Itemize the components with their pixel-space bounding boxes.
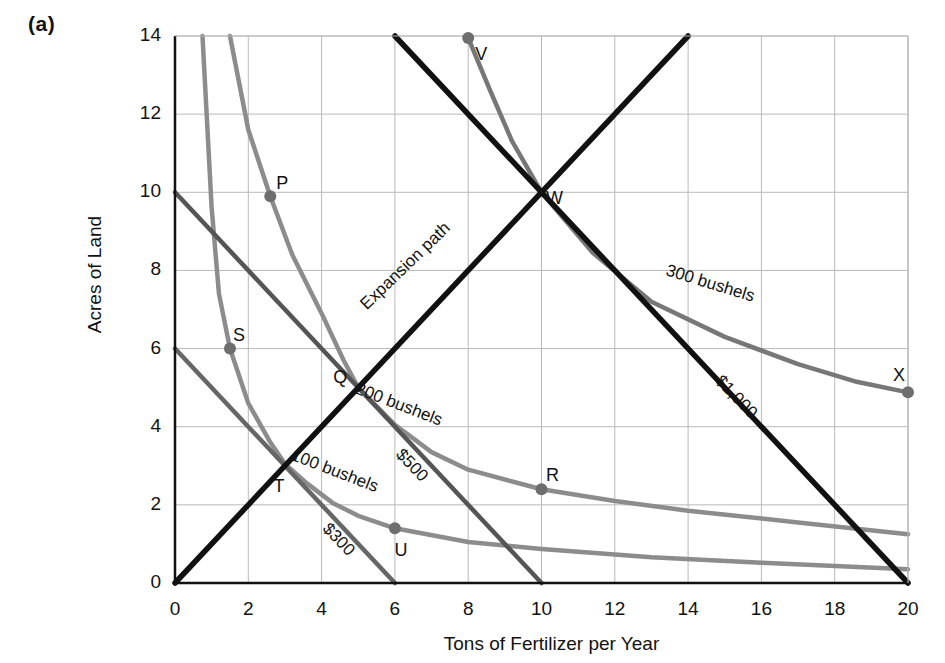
isoquant-isocost-chart: PQRSTUVWX 100 bushels200 bushels300 bush… bbox=[0, 0, 945, 663]
y-tick-label: 6 bbox=[150, 337, 161, 358]
series-line-1-000 bbox=[395, 36, 908, 583]
x-tick-label: 0 bbox=[170, 598, 181, 619]
x-tick-label: 18 bbox=[824, 598, 845, 619]
data-point-dot-p bbox=[264, 190, 276, 202]
data-point-label-p: P bbox=[276, 173, 288, 193]
curve-label-1-000: $1,000 bbox=[712, 371, 762, 422]
chart-canvas: PQRSTUVWX 100 bushels200 bushels300 bush… bbox=[0, 0, 945, 663]
x-tick-label: 6 bbox=[390, 598, 401, 619]
x-tick-label: 20 bbox=[897, 598, 918, 619]
y-tick-label: 12 bbox=[140, 102, 161, 123]
x-tick-label: 14 bbox=[678, 598, 700, 619]
y-tick-label: 10 bbox=[140, 180, 161, 201]
data-point-dot-u bbox=[389, 522, 401, 534]
data-point-label-r: R bbox=[546, 465, 559, 485]
curve-label-500: $500 bbox=[392, 445, 432, 485]
data-point-dot-r bbox=[536, 483, 548, 495]
y-tick-label: 2 bbox=[150, 493, 161, 514]
y-tick-label: 4 bbox=[150, 415, 161, 436]
data-point-label-s: S bbox=[233, 325, 245, 345]
curve-labels: 100 bushels200 bushels300 bushels$300$50… bbox=[289, 218, 762, 559]
x-tick-label: 4 bbox=[316, 598, 327, 619]
data-point-label-x: X bbox=[893, 365, 905, 385]
curve-label-200-bushels: 200 bushels bbox=[353, 379, 445, 430]
x-tick-label: 12 bbox=[604, 598, 625, 619]
axis-titles: Tons of Fertilizer per YearAcres of Land bbox=[84, 216, 660, 654]
x-tick-label: 10 bbox=[531, 598, 552, 619]
curve-label-300-bushels: 300 bushels bbox=[664, 261, 757, 306]
y-tick-label: 14 bbox=[140, 24, 162, 45]
y-axis-title: Acres of Land bbox=[84, 216, 105, 333]
curve-label-300: $300 bbox=[319, 519, 359, 559]
curve-label-100-bushels: 100 bushels bbox=[289, 445, 381, 496]
tick-labels: 0246810121416182002468101214 bbox=[140, 24, 919, 619]
x-tick-label: 8 bbox=[463, 598, 474, 619]
y-tick-label: 0 bbox=[150, 571, 161, 592]
data-point-dot-x bbox=[902, 386, 914, 398]
data-point-label-w: W bbox=[546, 188, 563, 208]
x-axis-title: Tons of Fertilizer per Year bbox=[444, 633, 660, 654]
data-point-label-u: U bbox=[394, 540, 407, 560]
data-point-label-q: Q bbox=[333, 367, 347, 387]
x-tick-label: 2 bbox=[243, 598, 254, 619]
data-point-dot-v bbox=[462, 32, 474, 44]
x-tick-label: 16 bbox=[751, 598, 772, 619]
data-point-label-t: T bbox=[273, 476, 284, 496]
y-tick-label: 8 bbox=[150, 258, 161, 279]
data-point-label-v: V bbox=[475, 44, 487, 64]
